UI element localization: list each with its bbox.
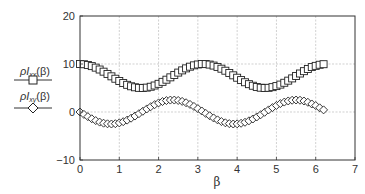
diamond-marker-icon <box>28 103 38 113</box>
legend-item-rho-ixy: ρIxy(β) <box>14 90 52 113</box>
y-tick-label: 10 <box>63 58 75 70</box>
x-axis-label: β <box>214 175 221 189</box>
y-tick-label: 20 <box>63 10 75 22</box>
x-tick-label: 2 <box>156 163 162 175</box>
plot-frame <box>80 16 355 160</box>
legend-label-tail: (β) <box>36 90 50 102</box>
x-tick-label: 7 <box>352 163 358 175</box>
legend-label-main: ρI <box>19 65 29 77</box>
series-rho-ixx <box>77 61 328 92</box>
chart: 01234567 −1001020 β ρIxx(β) ρIxy(β) <box>0 0 365 194</box>
grid-lines <box>80 16 355 160</box>
svg-text:ρIxy(β): ρIxy(β) <box>19 90 50 104</box>
legend-label-main: ρI <box>19 90 29 102</box>
square-marker-icon <box>29 76 37 84</box>
x-tick-label: 5 <box>273 163 279 175</box>
x-tick-label: 0 <box>77 163 83 175</box>
square-marker <box>320 61 327 68</box>
legend-label-tail: (β) <box>36 65 50 77</box>
x-tick-label: 1 <box>116 163 122 175</box>
y-tick-label: −10 <box>56 154 75 166</box>
x-tick-label: 4 <box>234 163 240 175</box>
legend-item-rho-ixx: ρIxx(β) <box>14 65 52 84</box>
x-tick-label: 6 <box>313 163 319 175</box>
x-tick-label: 3 <box>195 163 201 175</box>
series-rho-ixy <box>76 96 328 128</box>
y-axis-ticks: −1001020 <box>56 10 83 166</box>
y-tick-label: 0 <box>69 106 75 118</box>
legend: ρIxx(β) ρIxy(β) <box>14 65 52 113</box>
